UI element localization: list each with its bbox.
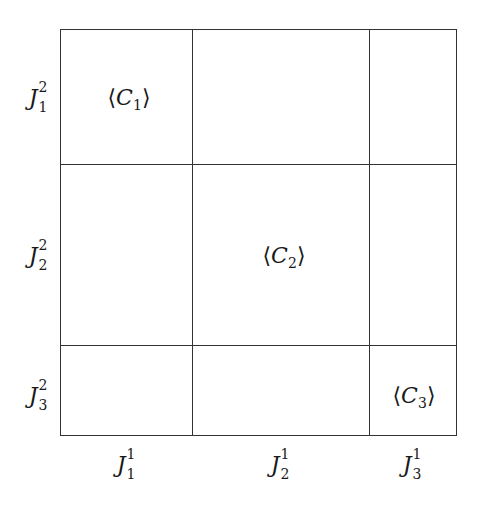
column-label-1-base: J [117, 454, 126, 476]
column-label-3-sub: 3 [412, 467, 421, 481]
row-label-1-sup: 2 [38, 80, 47, 94]
column-label-2-sub: 2 [280, 467, 289, 481]
column-label-2-base: J [271, 454, 280, 476]
column-label-3-sup: 1 [412, 447, 421, 461]
row-label-2-base: J [29, 245, 38, 267]
left-angle-bracket: ⟨ [263, 243, 272, 268]
column-label-3: J13 [403, 451, 422, 479]
row-label-3-sup: 2 [38, 378, 47, 392]
row-label-1-base: J [29, 87, 38, 109]
left-angle-bracket: ⟨ [108, 85, 117, 110]
column-label-2: J12 [271, 451, 290, 479]
column-label-1: J11 [117, 451, 136, 479]
cell-c3: ⟨C3⟩ [393, 385, 436, 407]
row-label-3-sub: 3 [38, 398, 47, 412]
cell-c2-var: C [271, 243, 288, 268]
column-label-2-sup: 1 [280, 447, 289, 461]
row-label-2-sub: 2 [38, 258, 47, 272]
row-label-3: J23 [29, 382, 48, 410]
column-label-1-sub: 1 [126, 467, 135, 481]
cell-c2: ⟨C2⟩ [263, 245, 306, 267]
right-angle-bracket: ⟩ [142, 85, 151, 110]
column-label-3-base: J [403, 454, 412, 476]
row-divider-1 [61, 164, 456, 165]
row-label-2-sup: 2 [38, 238, 47, 252]
right-angle-bracket: ⟩ [297, 243, 306, 268]
row-label-2: J22 [29, 242, 48, 270]
row-label-3-base: J [29, 385, 38, 407]
column-label-1-sup: 1 [126, 447, 135, 461]
right-angle-bracket: ⟩ [427, 383, 436, 408]
column-divider-1 [192, 30, 193, 435]
column-divider-2 [369, 30, 370, 435]
left-angle-bracket: ⟨ [393, 383, 402, 408]
cell-c1-var: C [116, 85, 133, 110]
row-label-1: J21 [29, 84, 48, 112]
row-label-1-sub: 1 [38, 100, 47, 114]
cell-c1: ⟨C1⟩ [108, 87, 151, 109]
row-divider-2 [61, 345, 456, 346]
cell-c3-var: C [401, 383, 418, 408]
